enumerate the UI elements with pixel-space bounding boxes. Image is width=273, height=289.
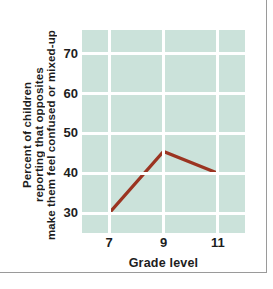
x-axis-tick-labels: 7911: [82, 236, 245, 254]
y-axis-tick-label: 60: [50, 87, 78, 100]
figure-frame-bottom-rule: [0, 272, 267, 273]
chart-figure: Percent of children reporting that oppos…: [0, 0, 273, 289]
gridline-vertical: [216, 30, 219, 233]
y-axis-tick-label: 50: [50, 126, 78, 139]
x-axis-tick-label: 11: [198, 236, 238, 249]
gridline-vertical: [162, 30, 165, 233]
y-axis-tick-label: 70: [50, 47, 78, 60]
plot-area: [82, 30, 245, 233]
gridline-vertical: [108, 30, 111, 233]
y-axis-title-line-1: Percent of children: [21, 5, 33, 265]
y-axis-tick-labels: 3040506070: [44, 0, 78, 289]
y-axis-tick-label: 30: [50, 206, 78, 219]
figure-frame-right-rule: [266, 0, 267, 273]
y-axis-tick-label: 40: [50, 166, 78, 179]
x-axis-tick-label: 9: [144, 236, 184, 249]
x-axis-tick-label: 7: [89, 236, 129, 249]
x-axis-title: Grade level: [82, 256, 245, 270]
